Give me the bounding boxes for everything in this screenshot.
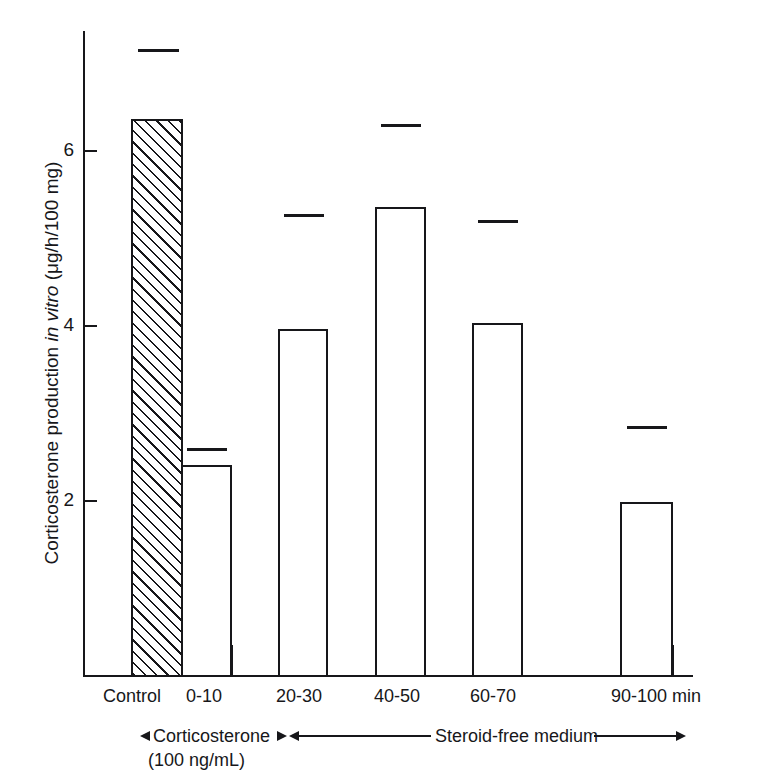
error-cap-90-100 xyxy=(627,426,667,429)
x-label-90-100: 90-100 min xyxy=(611,687,701,705)
bar-control xyxy=(131,119,183,677)
x-label-control: Control xyxy=(103,687,161,705)
error-cap-20-30 xyxy=(284,214,324,217)
y-tick-2 xyxy=(84,500,97,502)
bar-40-50 xyxy=(375,207,426,677)
corticosterone-arrow-right-icon xyxy=(277,731,287,741)
y-tick-4 xyxy=(84,325,97,327)
annotation-concentration-label: (100 ng/mL) xyxy=(148,750,245,770)
figure-bar-chart: 6 4 2 Corticosterone production in vitro… xyxy=(0,0,757,782)
error-cap-40-50 xyxy=(381,124,421,127)
x-label-0-10: 0-10 xyxy=(186,687,222,705)
steroid-free-arrow-right-icon xyxy=(676,731,686,741)
bar-0-10 xyxy=(181,465,232,677)
y-axis-line xyxy=(83,31,85,677)
x-label-40-50: 40-50 xyxy=(374,687,420,705)
steroid-free-arrow-left-icon xyxy=(289,731,299,741)
bar-20-30 xyxy=(278,329,328,677)
corticosterone-arrow-left-icon xyxy=(140,731,150,741)
y-axis-title-post: (μg/h/100 mg) xyxy=(41,162,62,286)
y-axis-title: Corticosterone production in vitro (μg/h… xyxy=(41,83,63,643)
bar-90-100 xyxy=(620,502,673,677)
steroid-free-line-left xyxy=(299,735,431,737)
annotation-corticosterone-label: Corticosterone xyxy=(153,726,270,746)
x-label-20-30: 20-30 xyxy=(276,687,322,705)
error-cap-0-10 xyxy=(187,448,227,451)
y-tick-6 xyxy=(84,150,97,152)
plot-area: 6 4 2 Corticosterone production in vitro… xyxy=(0,0,757,782)
steroid-free-line-right xyxy=(594,735,676,737)
error-cap-control xyxy=(138,49,179,52)
bar-60-70 xyxy=(472,323,523,677)
x-label-60-70: 60-70 xyxy=(470,687,516,705)
annotation-steroid-free-label: Steroid-free medium xyxy=(435,726,598,746)
error-cap-60-70 xyxy=(478,220,518,223)
y-axis-title-italic: in vitro xyxy=(41,286,62,342)
y-axis-title-pre: Corticosterone production xyxy=(41,342,62,565)
